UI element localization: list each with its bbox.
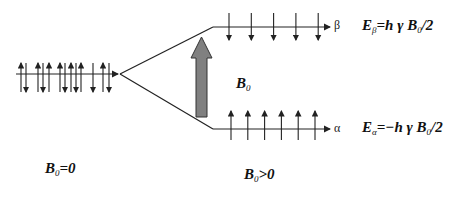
alpha-spin-arrows [231,111,315,140]
zero-field-caption: B0=0 [45,160,76,178]
unsplit-spin-arrows [21,63,109,92]
energy-alpha-label: Eα=−h γ B0/2 [362,119,443,137]
beta-label: β [334,18,340,33]
b0-field-label: B0 [236,75,251,93]
positive-field-caption: B0>0 [244,166,275,184]
field-arrow-icon [191,37,212,117]
energy-beta-label: Eβ=h γ B0/2 [362,17,433,35]
zeeman-splitting-diagram: β α B0 Eβ=h γ B0/2 Eα=−h γ B0/2 B0=0 B0>… [0,0,466,198]
alpha-label: α [334,121,340,136]
